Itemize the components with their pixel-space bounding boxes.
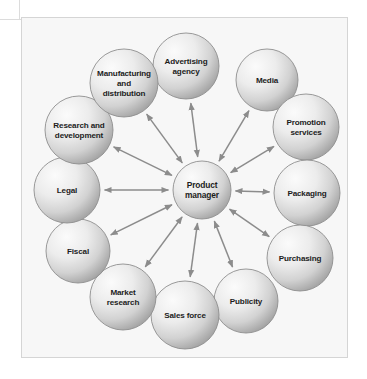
connector-product-manager-to-market-research: [145, 217, 182, 267]
node-label-line: Manufacturing: [97, 69, 151, 78]
node-label-line: distribution: [103, 89, 146, 98]
node-circle: [153, 33, 219, 99]
connector-product-manager-to-promotion-services: [231, 146, 274, 172]
node-sales-force[interactable]: Sales force: [151, 281, 219, 349]
node-publicity[interactable]: Publicity: [214, 269, 278, 333]
node-label-line: manager: [185, 190, 220, 200]
connector-product-manager-to-media: [219, 111, 249, 162]
connector-product-manager-to-fiscal: [111, 205, 172, 235]
node-label-line: Purchasing: [279, 254, 322, 263]
figure-page: AdvertisingagencyMediaPromotionservicesP…: [0, 0, 367, 379]
connector-product-manager-to-advertising-agency: [191, 103, 198, 157]
node-purchasing[interactable]: Purchasing: [267, 225, 333, 291]
node-label-line: Product: [187, 180, 218, 190]
connector-product-manager-to-packaging: [235, 191, 269, 192]
node-label-line: Promotion: [286, 118, 325, 127]
node-label-line: development: [55, 131, 104, 140]
node-manufacturing-and-distribution[interactable]: Manufacturinganddistribution: [90, 49, 158, 117]
node-label-line: research: [107, 298, 140, 307]
node-fiscal[interactable]: Fiscal: [46, 219, 110, 283]
diagram-frame: AdvertisingagencyMediaPromotionservicesP…: [21, 17, 348, 358]
connector-product-manager-to-research-and-development: [114, 147, 172, 175]
hub-and-spoke-diagram: AdvertisingagencyMediaPromotionservicesP…: [22, 18, 349, 359]
node-label-line: Research and: [53, 121, 104, 130]
node-legal[interactable]: Legal: [34, 157, 100, 223]
connector-product-manager-to-manufacturing-and-distribution: [147, 114, 183, 163]
node-label-line: Packaging: [287, 189, 326, 198]
node-promotion-services[interactable]: Promotionservices: [273, 94, 339, 160]
connector-product-manager-to-purchasing: [230, 209, 270, 237]
scan-guide-line-vertical: [19, 0, 20, 20]
connector-product-manager-to-publicity: [214, 221, 232, 267]
node-label-line: Sales force: [164, 311, 206, 320]
node-label-line: Media: [256, 76, 279, 85]
node-product-manager[interactable]: Productmanager: [173, 161, 231, 219]
node-label-line: Advertising: [165, 57, 208, 66]
node-circle: [273, 94, 339, 160]
node-label-line: Market: [110, 288, 136, 297]
node-label-line: Legal: [57, 186, 77, 195]
node-label-line: and: [117, 79, 131, 88]
node-label-line: agency: [173, 67, 201, 76]
connector-product-manager-to-sales-force: [190, 223, 197, 277]
node-layer: AdvertisingagencyMediaPromotionservicesP…: [34, 33, 340, 349]
node-label-line: services: [290, 128, 322, 137]
node-advertising-agency[interactable]: Advertisingagency: [153, 33, 219, 99]
node-label-line: Publicity: [230, 297, 263, 306]
node-packaging[interactable]: Packaging: [274, 160, 340, 226]
node-label-line: Fiscal: [67, 247, 89, 256]
